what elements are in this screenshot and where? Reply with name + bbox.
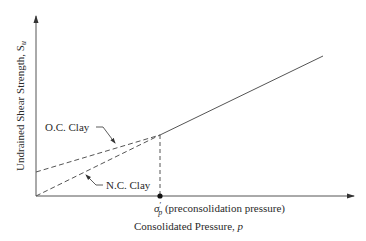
y-axis-label: Undrained Shear Strength, Su [14,41,28,171]
preconsolidation-label: σ′p (preconsolidation pressure) [154,201,285,217]
oc-clay-line [36,135,160,172]
oc-clay-label: O.C. Clay [45,121,90,133]
nc-leader [86,175,103,185]
normally-consolidated-line [160,56,323,135]
preconsolidation-point [157,193,162,198]
nc-clay-label: N.C. Clay [106,179,151,191]
oc-leader [96,127,115,143]
shear-strength-diagram: O.C. Clay N.C. Clay Undrained Shear Stre… [0,0,366,241]
x-axis-label: Consolidated Pressure, p [134,220,244,232]
